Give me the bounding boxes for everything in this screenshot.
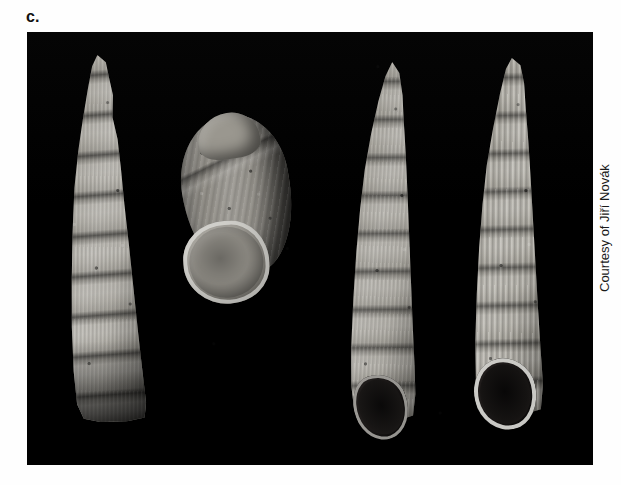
specimen-3 bbox=[336, 61, 437, 423]
figure-panel-c: c. bbox=[0, 0, 621, 485]
specimen-3-ribs bbox=[336, 61, 437, 423]
specimen-1-shell bbox=[54, 54, 154, 423]
specimen-3-shell bbox=[336, 61, 437, 423]
specimen-3-texture bbox=[336, 61, 437, 423]
panel-label: c. bbox=[26, 7, 39, 27]
specimen-photo-plate bbox=[27, 32, 593, 465]
photo-credit: Courtesy of Jiří Novák bbox=[598, 102, 612, 292]
specimen-3-shading bbox=[336, 61, 437, 423]
specimen-1-base-shadow bbox=[60, 340, 154, 423]
specimen-3-whorls bbox=[336, 61, 437, 423]
specimen-4-aperture-interior bbox=[474, 359, 537, 429]
specimen-4 bbox=[460, 58, 560, 417]
specimen-1 bbox=[54, 54, 154, 423]
specimen-2 bbox=[161, 107, 307, 310]
specimen-2-aperture-interior bbox=[188, 225, 266, 300]
